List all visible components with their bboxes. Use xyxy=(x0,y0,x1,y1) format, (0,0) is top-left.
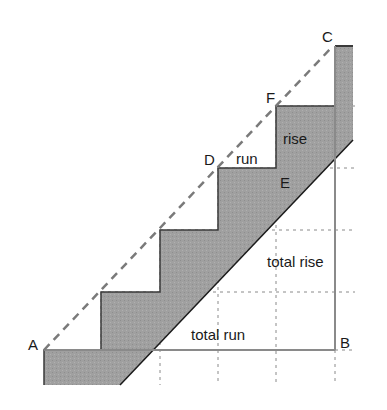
point-label-d: D xyxy=(204,151,215,168)
point-label-f: F xyxy=(266,89,275,106)
point-label-b: B xyxy=(340,334,350,351)
point-label-a: A xyxy=(28,336,38,353)
run-label: run xyxy=(236,150,258,167)
total-run-label: total run xyxy=(191,326,245,343)
stair-diagram: A B C D E F rise run total rise total ru… xyxy=(0,0,387,410)
rise-label: rise xyxy=(283,130,307,147)
point-label-c: C xyxy=(322,28,333,45)
point-label-e: E xyxy=(280,174,290,191)
total-rise-label: total rise xyxy=(267,253,324,270)
